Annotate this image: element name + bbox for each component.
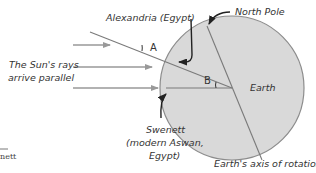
earth-axis-label: Earth's axis of rotation [214,158,316,170]
swenett-label-line2: (modern Aswan, [126,137,204,149]
alexandria-label: Alexandria (Egypt) [106,12,195,24]
swenett-label-line3: Egypt) [149,150,180,162]
cropped-text-fragment: nett [0,152,16,161]
north-pole-label: North Pole [235,6,285,18]
swenett-label-line1: Swenett [146,124,185,136]
angle-b-arc [216,82,217,88]
suns-rays-label-line2: arrive parallel [8,72,74,84]
suns-rays-label-line1: The Sun's rays [9,59,79,71]
angle-a-label: A [150,42,157,53]
earth-label: Earth [250,82,275,94]
angle-b-label: B [204,75,211,86]
